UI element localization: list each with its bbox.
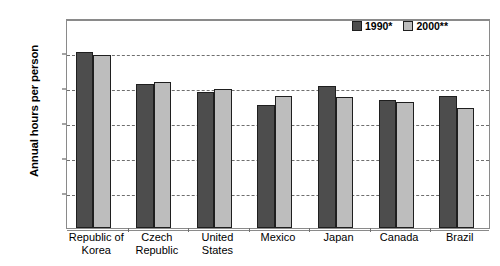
bar-chart: Annual hours per person 05001,0001,5002,…: [0, 0, 500, 266]
bar: [76, 52, 94, 228]
x-axis-category-labels: Republic ofKoreaCzechRepublicUnitedState…: [66, 231, 490, 265]
bar: [275, 96, 293, 228]
bar: [318, 86, 336, 228]
x-label-line: Mexico: [248, 231, 309, 244]
clipped-chart-title: [0, 0, 500, 10]
bar: [457, 108, 475, 228]
legend-item: 2000**: [403, 20, 448, 32]
legend-label: 1990*: [365, 20, 392, 32]
x-axis-label: Japan: [308, 231, 369, 244]
x-axis-label: UnitedStates: [187, 231, 248, 256]
x-label-line: Korea: [66, 244, 127, 257]
x-label-line: United: [187, 231, 248, 244]
x-axis-label: CzechRepublic: [127, 231, 188, 256]
x-axis-label: Mexico: [248, 231, 309, 244]
x-label-line: Canada: [369, 231, 430, 244]
x-label-line: Czech: [127, 231, 188, 244]
bar: [396, 102, 414, 228]
x-label-line: Republic of: [66, 231, 127, 244]
x-label-line: Republic: [127, 244, 188, 257]
legend-swatch-icon: [403, 21, 413, 31]
bar: [214, 89, 232, 228]
bar: [336, 97, 354, 228]
bar-group: [370, 20, 431, 228]
bar: [379, 100, 397, 228]
bar-group: [67, 20, 128, 228]
legend-item: 1990*: [352, 20, 392, 32]
bar-group: [128, 20, 189, 228]
bar-group: [249, 20, 310, 228]
x-axis-label: Canada: [369, 231, 430, 244]
bar: [257, 105, 275, 228]
y-axis-title: Annual hours per person: [28, 11, 40, 211]
bar: [136, 84, 154, 228]
x-axis-label: Brazil: [429, 231, 490, 244]
chart-legend: 1990*2000**: [352, 20, 448, 32]
bar-group: [309, 20, 370, 228]
bars-layer: [67, 20, 489, 228]
x-label-line: States: [187, 244, 248, 257]
legend-swatch-icon: [352, 21, 362, 31]
bar: [93, 55, 111, 228]
bar-group: [188, 20, 249, 228]
x-label-line: Brazil: [429, 231, 490, 244]
x-label-line: Japan: [308, 231, 369, 244]
bar-group: [430, 20, 491, 228]
bar: [439, 96, 457, 228]
x-axis-label: Republic ofKorea: [66, 231, 127, 256]
bar: [154, 82, 172, 228]
plot-area: [66, 19, 490, 229]
bar: [197, 92, 215, 229]
legend-label: 2000**: [416, 20, 448, 32]
